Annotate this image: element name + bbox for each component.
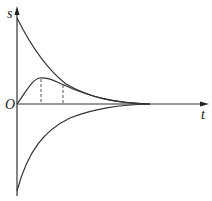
t-axis-label: t <box>201 108 205 122</box>
s-axis-label: s <box>7 7 12 21</box>
hump-curve <box>17 78 150 104</box>
s-axis-arrow-icon <box>15 6 20 15</box>
t-axis-arrow-icon <box>200 102 209 107</box>
upper-decay-curve <box>17 18 150 104</box>
lower-decay-curve <box>17 104 150 191</box>
diagram-svg <box>0 0 212 201</box>
s-t-diagram: s O t <box>0 0 212 201</box>
origin-label: O <box>5 98 15 112</box>
